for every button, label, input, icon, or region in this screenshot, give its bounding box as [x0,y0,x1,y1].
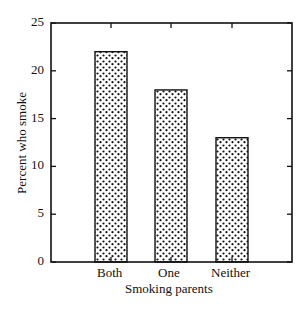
y-tick-20: 20 [24,62,44,78]
chart-canvas [0,0,307,312]
y-tick-5: 5 [24,205,44,221]
x-category-one: One [158,265,180,281]
x-category-neither: Neither [211,265,250,281]
y-tick-0: 0 [24,253,44,269]
bar-both [95,52,127,262]
y-axis-label: Percent who smoke [14,83,30,203]
bar-one [155,90,187,262]
bar-neither [216,138,248,262]
x-category-both: Both [97,265,122,281]
x-axis-label: Smoking parents [125,281,213,297]
bars [95,52,248,262]
y-tick-25: 25 [24,14,44,30]
